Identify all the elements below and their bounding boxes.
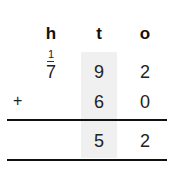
row1-ones: 2 [130, 62, 160, 83]
carry-hundreds: 1 [36, 48, 66, 60]
header-tens: t [84, 24, 114, 44]
row1-tens: 9 [84, 62, 114, 83]
result-tens: 5 [84, 131, 114, 152]
sum-rule-top [7, 119, 167, 121]
row1-hundreds: 7 [36, 62, 66, 83]
plus-operator: + [13, 92, 22, 110]
header-hundreds: h [36, 24, 66, 44]
result-ones: 2 [130, 131, 160, 152]
row2-tens: 6 [84, 92, 114, 113]
header-ones: o [130, 24, 160, 44]
row2-ones: 0 [130, 92, 160, 113]
sum-rule-bottom [7, 159, 167, 161]
